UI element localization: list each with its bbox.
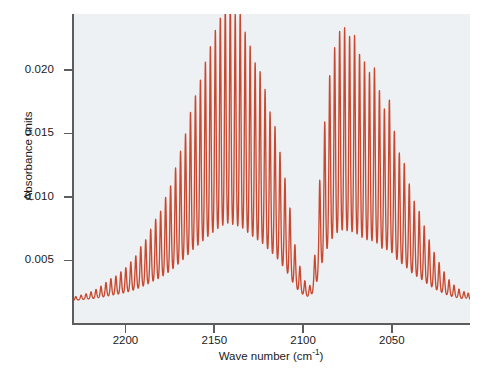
x-axis-title-text: Wave number (cm — [219, 350, 313, 362]
x-axis-tick-label: 2200 — [95, 334, 155, 346]
y-axis-tick — [64, 69, 72, 71]
x-axis-tick — [213, 325, 215, 333]
y-axis-tick — [64, 133, 72, 135]
x-axis-tick — [125, 325, 127, 333]
y-axis-tick-label: 0.005 — [0, 253, 62, 265]
x-axis-tick-label: 2100 — [273, 334, 333, 346]
x-axis-title-tail: ) — [320, 350, 324, 362]
x-axis-tick-label: 2050 — [362, 334, 422, 346]
x-axis-title-exponent: -1 — [312, 348, 319, 357]
x-axis-tick — [302, 325, 304, 333]
y-axis-tick — [64, 196, 72, 198]
x-axis-tick — [391, 325, 393, 333]
spectrum-line — [74, 14, 470, 300]
x-axis-line — [72, 323, 470, 325]
x-axis-tick-label: 2150 — [184, 334, 244, 346]
x-axis-title: Wave number (cm-1) — [72, 350, 470, 362]
y-axis-title: Absorbance units — [22, 66, 34, 246]
spectrum-svg — [74, 14, 470, 324]
figure-container: 0.0050.0100.0150.020 2200215021002050 Ab… — [0, 0, 492, 380]
plot-area — [74, 14, 470, 324]
y-axis-tick — [64, 260, 72, 262]
y-axis-line — [72, 14, 74, 325]
